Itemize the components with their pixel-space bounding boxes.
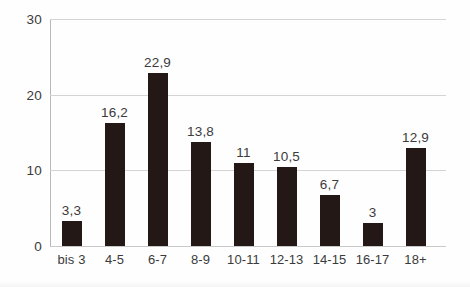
bar: [191, 142, 211, 246]
bar-group: 6,7: [308, 19, 351, 246]
bar: [234, 163, 254, 246]
bar-group: 12,9: [394, 19, 437, 246]
bar: [320, 195, 340, 246]
bar-group: 10,5: [265, 19, 308, 246]
bar-group: 3: [351, 19, 394, 246]
bar-value-label: 10,5: [273, 149, 300, 164]
bar-group: 16,2: [93, 19, 136, 246]
y-axis-tick-label: 30: [8, 12, 42, 27]
y-axis-tick-label: 10: [8, 163, 42, 178]
bar-value-label: 3: [369, 205, 377, 220]
bar: [277, 167, 297, 246]
bar-group: 11: [222, 19, 265, 246]
bar-value-label: 3,3: [62, 203, 81, 218]
bar: [105, 123, 125, 246]
bar-value-label: 12,9: [402, 130, 429, 145]
bar-value-label: 13,8: [187, 124, 214, 139]
bar: [406, 148, 426, 246]
bar-value-label: 16,2: [101, 105, 128, 120]
bar-group: 3,3: [50, 19, 93, 246]
bar-chart: 0102030 3,316,222,913,81110,56,7312,9 bi…: [0, 0, 470, 287]
bar-value-label: 22,9: [144, 55, 171, 70]
bar-group: 22,9: [136, 19, 179, 246]
x-axis-category-label: 18+: [386, 252, 446, 267]
bar: [148, 73, 168, 246]
bar-value-label: 6,7: [320, 177, 339, 192]
scan-edge-artifact: [0, 281, 470, 287]
y-axis-tick-label: 0: [8, 239, 42, 254]
bar: [62, 221, 82, 246]
plot-area: 3,316,222,913,81110,56,7312,9: [50, 19, 446, 246]
bar-value-label: 11: [236, 145, 250, 160]
y-axis-tick-label: 20: [8, 87, 42, 102]
bar: [363, 223, 383, 246]
bar-group: 13,8: [179, 19, 222, 246]
gridline: [50, 246, 446, 247]
